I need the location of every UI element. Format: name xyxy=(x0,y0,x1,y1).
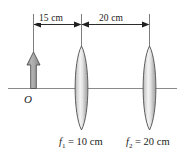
arrowhead-right-15cm xyxy=(74,22,82,28)
arrowhead-left-20cm xyxy=(82,22,90,28)
object-arrow xyxy=(27,52,40,89)
lens-1 xyxy=(75,46,88,130)
focal-length-label-lens1: f1 = 10 cm xyxy=(59,136,103,150)
object-arrow-shape xyxy=(27,52,40,89)
dimension-label-15cm: 15 cm xyxy=(38,13,64,23)
focal-value-2: 20 cm xyxy=(144,136,170,147)
optics-figure: 15 cm 20 cm O f1 = 10 cm f2 = 20 cm xyxy=(0,0,191,158)
lens-2 xyxy=(143,46,156,130)
dimension-label-20cm: 20 cm xyxy=(98,13,124,23)
focal-length-label-lens2: f2 = 20 cm xyxy=(126,136,170,150)
figure-canvas xyxy=(0,0,191,158)
arrowhead-right-20cm xyxy=(142,22,150,28)
object-label: O xyxy=(24,93,32,105)
focal-value-1: 10 cm xyxy=(77,136,103,147)
